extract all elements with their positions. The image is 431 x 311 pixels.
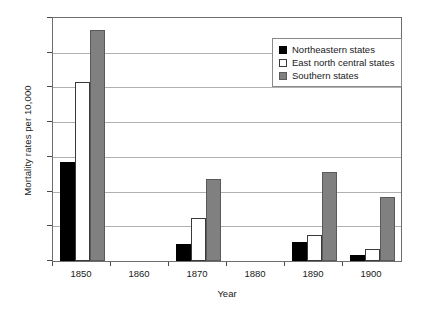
y-tick-mark [47,86,52,87]
y-tick-mark [47,156,52,157]
bar [365,249,380,261]
x-tick-mark [52,262,53,266]
plot-area: Northeastern statesEast north central st… [52,17,402,262]
x-tick-label: 1860 [109,268,169,279]
bar [350,255,365,261]
gridline [53,122,401,123]
legend-label: Southern states [292,70,359,81]
x-axis-title: Year [52,288,402,299]
y-tick-mark [47,260,52,261]
bar [75,82,90,261]
legend-item: Southern states [279,69,394,82]
bar [292,242,307,261]
bar [322,172,337,261]
bar [191,218,206,261]
gridline [53,226,401,227]
x-tick-mark [226,262,227,266]
legend-swatch-icon [279,72,287,80]
bar [90,30,105,261]
x-tick-label: 1850 [51,268,111,279]
gridline [53,192,401,193]
y-tick-mark [47,121,52,122]
bar [380,197,395,261]
legend-item: East north central states [279,56,394,69]
mortality-bar-chart: Mortality rates per 10,000 Northeastern … [0,0,431,311]
legend-label: Northeastern states [292,44,375,55]
gridline [53,157,401,158]
bar [176,244,191,261]
x-tick-mark [284,262,285,266]
x-tick-label: 1880 [225,268,285,279]
chart-legend: Northeastern statesEast north central st… [272,38,402,87]
y-axis-title: Mortality rates per 10,000 [22,41,33,241]
x-tick-label: 1870 [167,268,227,279]
y-tick-mark [47,17,52,18]
x-tick-mark [110,262,111,266]
y-tick-mark [47,191,52,192]
bar [206,179,221,261]
legend-item: Northeastern states [279,43,394,56]
bar [307,235,322,261]
x-tick-label: 1900 [341,268,401,279]
y-tick-mark [47,225,52,226]
x-tick-mark [342,262,343,266]
y-tick-mark [47,52,52,53]
legend-swatch-icon [279,46,287,54]
legend-label: East north central states [292,57,394,68]
bar [60,162,75,261]
legend-swatch-icon [279,59,287,67]
gridline [53,87,401,88]
x-tick-mark [168,262,169,266]
x-tick-label: 1890 [283,268,343,279]
